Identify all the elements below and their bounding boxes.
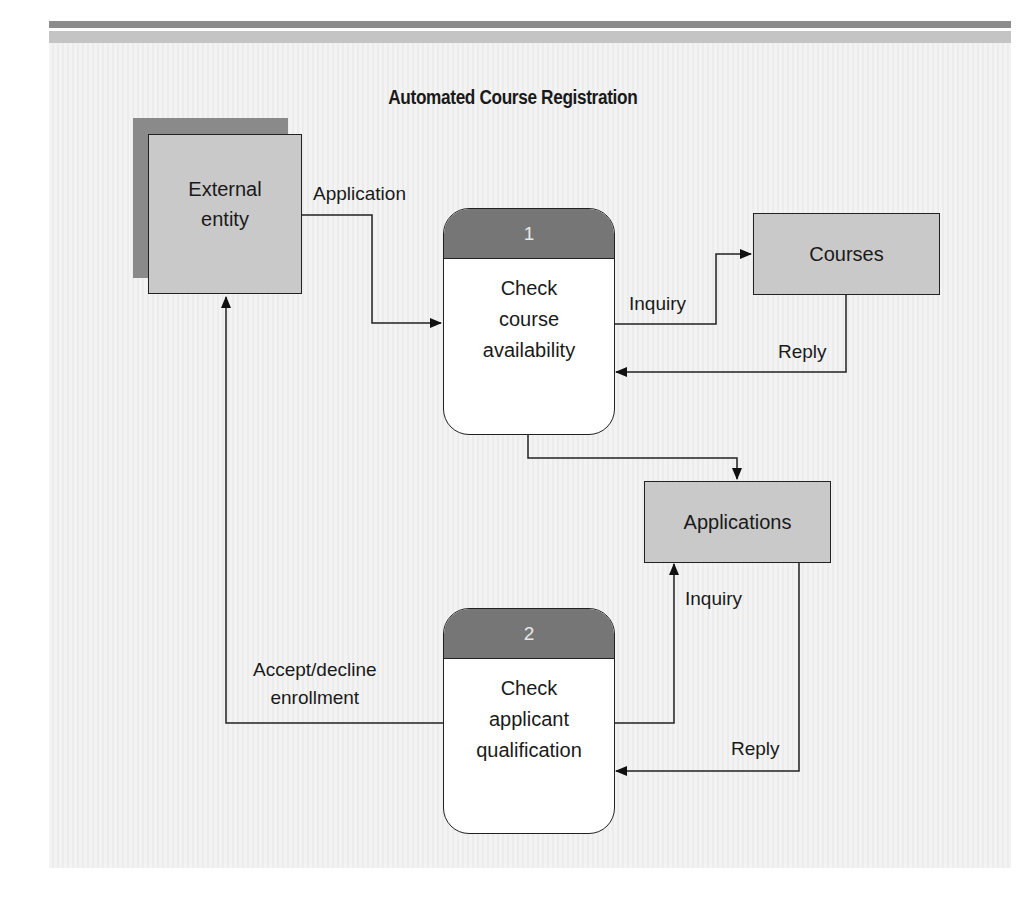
flow-label-application: Application [313, 180, 406, 208]
external-entity[interactable]: External entity [148, 134, 302, 294]
flow-label-reply-applications: Reply [731, 735, 780, 763]
flow-application [302, 215, 441, 323]
flow-label-reply-courses: Reply [778, 338, 827, 366]
flow-label-inquiry-applications: Inquiry [685, 585, 742, 613]
external-entity-label: External entity [188, 174, 261, 234]
process-1-number: 1 [444, 209, 614, 259]
process-1-label: Check course availability [444, 259, 614, 366]
process-2-label: Check applicant qualification [444, 659, 614, 766]
flow-inquiry-applications [614, 564, 674, 723]
flow-label-accept-decline: Accept/decline enrollment [253, 656, 377, 712]
process-2-number: 2 [444, 609, 614, 659]
applications-label: Applications [684, 511, 792, 534]
flow-to-applications [528, 433, 737, 479]
process-2[interactable]: 2 Check applicant qualification [443, 608, 615, 834]
process-1[interactable]: 1 Check course availability [443, 208, 615, 435]
data-store-courses[interactable]: Courses [753, 213, 940, 295]
flow-label-inquiry-courses: Inquiry [629, 290, 686, 318]
courses-label: Courses [809, 243, 883, 266]
data-store-applications[interactable]: Applications [644, 481, 831, 563]
